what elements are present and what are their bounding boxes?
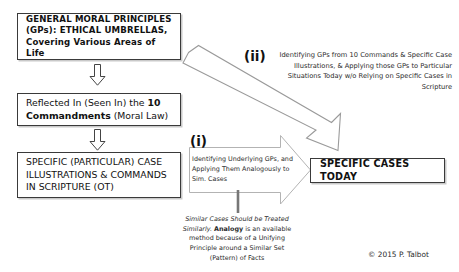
commandments-prefix: Reflected In (Seen In) the bbox=[26, 97, 148, 108]
box-general-moral-principles-label: GENERAL MORAL PRINCIPLES (GPs): ETHICAL … bbox=[18, 14, 180, 60]
box-specific-cases-today-label: SPECIFIC CASES TODAY bbox=[311, 158, 444, 184]
box-specific-cases-scripture-label: SPECIFIC (PARTICULAR) CASE ILLUSTRATIONS… bbox=[18, 156, 180, 193]
copyright-notice: © 2015 P. Talbot bbox=[368, 250, 429, 259]
box-specific-cases-scripture: SPECIFIC (PARTICULAR) CASE ILLUSTRATIONS… bbox=[17, 152, 181, 198]
down-block-arrow-icon-1 bbox=[89, 64, 106, 86]
down-block-arrow-icon-2 bbox=[89, 129, 106, 151]
path-label-i: (i) bbox=[190, 133, 207, 149]
box-ten-commandments: Reflected In (Seen In) the 10 Commandmen… bbox=[17, 93, 181, 126]
analogy-note-bold: Analogy bbox=[214, 225, 243, 233]
box-general-moral-principles: GENERAL MORAL PRINCIPLES (GPs): ETHICAL … bbox=[17, 13, 181, 60]
path-label-ii: (ii) bbox=[244, 48, 266, 64]
path-description-ii: Identifying GPs from 10 Commands & Speci… bbox=[268, 50, 452, 92]
commandments-suffix: (Moral Law) bbox=[111, 110, 168, 121]
analogy-note: Similar Cases Should be Treated Similarl… bbox=[175, 215, 299, 264]
path-description-i: Identifying Underlying GPs, and Applying… bbox=[192, 155, 296, 185]
diagram-canvas: GENERAL MORAL PRINCIPLES (GPs): ETHICAL … bbox=[0, 0, 459, 272]
box-specific-cases-today: SPECIFIC CASES TODAY bbox=[310, 158, 445, 183]
box-ten-commandments-label: Reflected In (Seen In) the 10 Commandmen… bbox=[18, 97, 180, 122]
